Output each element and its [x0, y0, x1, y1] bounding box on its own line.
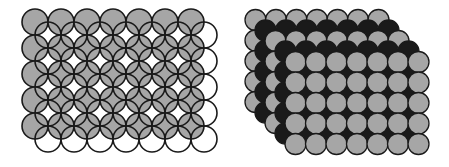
atom-circle	[306, 113, 327, 134]
atom-circle	[408, 52, 429, 73]
atom-circle	[326, 134, 347, 155]
atom-circle	[408, 93, 429, 114]
atom-circle	[326, 113, 347, 134]
stacked-layers-panel	[245, 10, 429, 155]
atom-circle	[367, 134, 388, 155]
atom-circle	[367, 113, 388, 134]
atom-circle	[408, 72, 429, 93]
atom-circle	[388, 72, 409, 93]
atom-circle	[347, 72, 368, 93]
atom-circle	[326, 93, 347, 114]
atom-circle	[347, 93, 368, 114]
atom-circle	[347, 134, 368, 155]
atom-circle	[306, 93, 327, 114]
atom-circle	[388, 113, 409, 134]
atom-circle	[326, 72, 347, 93]
atom-circle	[285, 134, 306, 155]
atom-circle	[388, 134, 409, 155]
atom-circle	[285, 72, 306, 93]
atom-circle	[408, 113, 429, 134]
atom-circle	[306, 134, 327, 155]
atom-circle	[285, 113, 306, 134]
atom-circle	[367, 93, 388, 114]
atom-circle	[347, 113, 368, 134]
atom-layer-5	[285, 52, 429, 155]
atom-circle	[408, 134, 429, 155]
atom-circle	[285, 93, 306, 114]
atom-circle	[367, 52, 388, 73]
square-layer-overlap-panel	[22, 9, 217, 152]
close-packed-layers-diagram	[0, 0, 449, 167]
atom-circle	[326, 52, 347, 73]
atom-circle	[285, 52, 306, 73]
atom-circle	[306, 72, 327, 93]
atom-circle	[388, 93, 409, 114]
atom-circle	[367, 72, 388, 93]
atom-circle	[306, 52, 327, 73]
atom-circle	[347, 52, 368, 73]
atom-circle	[388, 52, 409, 73]
